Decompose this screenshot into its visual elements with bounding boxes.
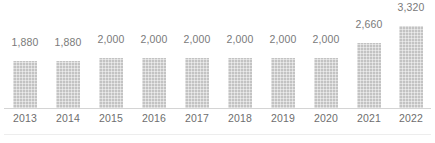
category-label-2021: 2021 — [348, 112, 390, 124]
bar-value-label: 2,000 — [305, 33, 347, 45]
bar-rect[interactable] — [399, 26, 423, 108]
category-label-2019: 2019 — [262, 112, 304, 124]
bar-value-label: 2,000 — [90, 33, 132, 45]
bar-rect[interactable] — [228, 58, 252, 108]
bar-value-label: 3,320 — [390, 1, 432, 13]
bar-chart: 1,880 1,880 2,000 2,000 2,000 2,000 2,00… — [0, 0, 435, 143]
bar-value-label: 1,880 — [4, 36, 46, 48]
bar-value-label: 2,000 — [219, 33, 261, 45]
bar-rect[interactable] — [56, 61, 80, 108]
bar-group[interactable]: 2,000 — [219, 0, 261, 110]
category-axis: 2013 2014 2015 2016 2017 2018 2019 2020 … — [0, 112, 435, 130]
bar-rect[interactable] — [271, 58, 295, 108]
category-label-2017: 2017 — [176, 112, 218, 124]
bar-group[interactable]: 3,320 — [390, 0, 432, 110]
axis-baseline — [4, 108, 431, 109]
bar-value-label: 2,660 — [348, 18, 390, 30]
bottom-rule — [4, 134, 431, 135]
bar-rect[interactable] — [357, 43, 381, 108]
bar-group[interactable]: 1,880 — [47, 0, 89, 110]
bar-value-label: 1,880 — [47, 36, 89, 48]
bar-value-label: 2,000 — [133, 33, 175, 45]
bar-rect[interactable] — [185, 58, 209, 108]
category-label-2013: 2013 — [4, 112, 46, 124]
bar-value-label: 2,000 — [176, 33, 218, 45]
category-label-2016: 2016 — [133, 112, 175, 124]
bar-group[interactable]: 2,000 — [90, 0, 132, 110]
bar-group[interactable]: 2,000 — [262, 0, 304, 110]
bar-rect[interactable] — [99, 58, 123, 108]
bar-group[interactable]: 2,000 — [305, 0, 347, 110]
category-label-2018: 2018 — [219, 112, 261, 124]
bar-value-label: 2,000 — [262, 33, 304, 45]
category-label-2020: 2020 — [305, 112, 347, 124]
bar-rect[interactable] — [13, 61, 37, 108]
bar-group[interactable]: 2,000 — [133, 0, 175, 110]
bar-rect[interactable] — [142, 58, 166, 108]
category-label-2014: 2014 — [47, 112, 89, 124]
bar-group[interactable]: 1,880 — [4, 0, 46, 110]
plot-area: 1,880 1,880 2,000 2,000 2,000 2,000 2,00… — [0, 0, 435, 110]
category-label-2022: 2022 — [390, 112, 432, 124]
category-label-2015: 2015 — [90, 112, 132, 124]
bar-rect[interactable] — [314, 58, 338, 108]
bar-group[interactable]: 2,000 — [176, 0, 218, 110]
bar-group[interactable]: 2,660 — [348, 0, 390, 110]
